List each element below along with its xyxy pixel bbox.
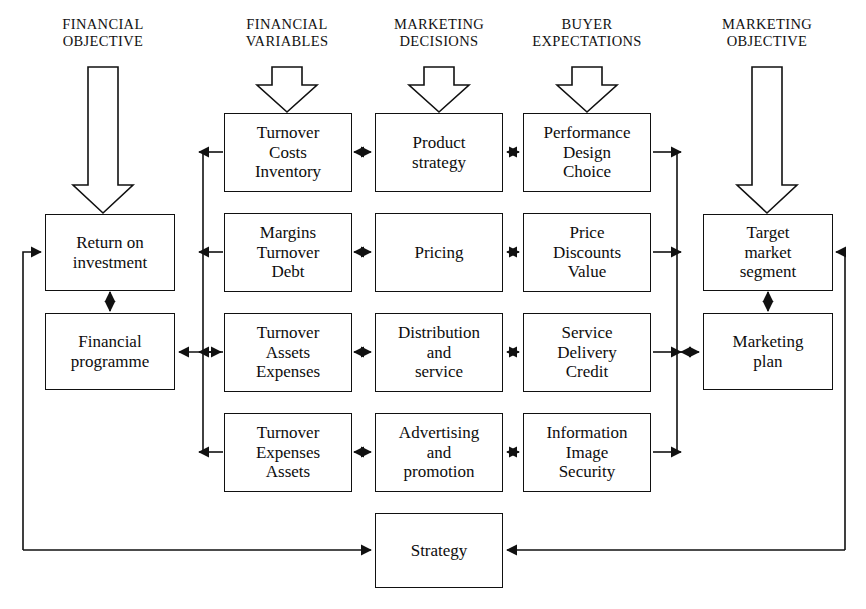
column-heading-marketing-objective: MARKETING OBJECTIVE	[692, 16, 842, 50]
big-arrow-marketing-objective	[737, 67, 797, 213]
node-buyer-expectations-row4[interactable]: Information Image Security	[523, 413, 651, 492]
node-marketing-decisions-row1[interactable]: Product strategy	[375, 113, 503, 192]
node-financial-variables-row2[interactable]: Margins Turnover Debt	[224, 213, 352, 292]
node-financial-programme[interactable]: Financial programme	[45, 313, 175, 390]
node-marketing-decisions-row2[interactable]: Pricing	[375, 213, 503, 292]
big-arrow-buyer-expectations	[557, 67, 617, 112]
loop-right-to-tms	[836, 252, 845, 550]
node-financial-variables-row3[interactable]: Turnover Assets Expenses	[224, 313, 352, 392]
node-financial-variables-row4[interactable]: Turnover Expenses Assets	[224, 413, 352, 492]
column-heading-buyer-expectations: BUYER EXPECTATIONS	[512, 16, 662, 50]
node-strategy[interactable]: Strategy	[375, 513, 503, 588]
node-marketing-decisions-row4[interactable]: Advertising and promotion	[375, 413, 503, 492]
column-heading-marketing-decisions: MARKETING DECISIONS	[364, 16, 514, 50]
big-arrow-financial-objective	[73, 67, 133, 213]
node-marketing-decisions-row3[interactable]: Distribution and service	[375, 313, 503, 392]
node-buyer-expectations-row2[interactable]: Price Discounts Value	[523, 213, 651, 292]
column-heading-financial-objective: FINANCIAL OBJECTIVE	[28, 16, 178, 50]
node-financial-variables-row1[interactable]: Turnover Costs Inventory	[224, 113, 352, 192]
node-marketing-plan[interactable]: Marketing plan	[703, 313, 833, 390]
big-arrow-marketing-decisions	[409, 67, 469, 112]
node-buyer-expectations-row3[interactable]: Service Delivery Credit	[523, 313, 651, 392]
diagram-canvas: FINANCIAL OBJECTIVE FINANCIAL VARIABLES …	[0, 0, 866, 609]
column-heading-financial-variables: FINANCIAL VARIABLES	[212, 16, 362, 50]
loop-left-to-roi	[23, 252, 41, 550]
node-buyer-expectations-row1[interactable]: Performance Design Choice	[523, 113, 651, 192]
big-arrow-financial-variables	[257, 67, 317, 112]
node-target-market-segment[interactable]: Target market segment	[703, 214, 833, 291]
node-return-on-investment[interactable]: Return on investment	[45, 214, 175, 291]
